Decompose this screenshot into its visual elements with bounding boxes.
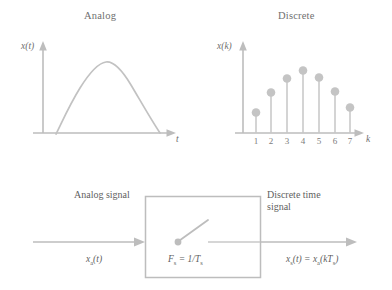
- sampler-box: [146, 197, 261, 278]
- sampler-formula-middle: = 1/T: [176, 254, 200, 264]
- switch-blade: [180, 220, 209, 241]
- discrete-time-signal-label-line1: Discrete time: [267, 189, 321, 200]
- stem-1: [252, 108, 261, 133]
- discrete-panel-title: Discrete: [278, 10, 315, 21]
- tick-label-2: 2: [265, 136, 277, 146]
- output-signal-arrowhead: [346, 238, 357, 247]
- tick-label-1: 1: [250, 136, 262, 146]
- discrete-y-axis-label: x(k): [217, 41, 232, 51]
- input-signal-arrowhead: [134, 238, 145, 247]
- figure-canvas: Analog Discrete x(t) x(k) t k 1 2 3 4 5 …: [0, 0, 392, 290]
- block-diagram-svg: [0, 175, 392, 290]
- sampler-frequency-formula: Fs = 1/Ts: [168, 254, 203, 266]
- analog-x-axis-label: t: [176, 134, 179, 144]
- tick-label-6: 6: [329, 136, 341, 146]
- analog-panel-title: Analog: [84, 10, 116, 21]
- discrete-panel: [235, 41, 364, 137]
- top-panels-svg: [0, 0, 392, 175]
- analog-waveform-curve: [56, 62, 160, 134]
- stem-5: [315, 73, 324, 133]
- output-signal-expression: xs(t) = xa(kTs): [286, 254, 338, 266]
- tick-label-3: 3: [281, 136, 293, 146]
- output-signal-tail: ): [335, 254, 338, 264]
- tick-label-7: 7: [344, 136, 356, 146]
- stem-7: [346, 103, 355, 133]
- stem-4: [299, 66, 308, 133]
- output-signal-middle-c: (kT: [320, 254, 333, 264]
- discrete-x-axis-label: k: [366, 134, 370, 144]
- stem-6: [331, 87, 340, 133]
- analog-x-axis-arrowhead: [167, 129, 177, 136]
- input-signal-expression: xa(t): [86, 254, 102, 266]
- tick-label-4: 4: [297, 136, 309, 146]
- output-signal-middle-b: (t) = x: [293, 254, 317, 264]
- discrete-time-signal-label: Discrete time signal: [267, 189, 321, 213]
- stem-series: [252, 66, 355, 133]
- discrete-time-signal-label-line2: signal: [267, 201, 291, 212]
- discrete-y-axis-arrowhead: [239, 41, 247, 51]
- input-signal-tail: (t): [93, 254, 102, 264]
- analog-panel: [33, 41, 176, 137]
- stem-2: [267, 88, 276, 133]
- sampler-formula-t-subscript: s: [200, 259, 203, 266]
- tick-label-5: 5: [313, 136, 325, 146]
- analog-y-axis-label: x(t): [21, 41, 34, 51]
- analog-y-axis-arrowhead: [39, 41, 47, 51]
- stem-3: [283, 74, 292, 133]
- analog-signal-label: Analog signal: [74, 189, 130, 201]
- sampling-switch-icon: [175, 220, 260, 245]
